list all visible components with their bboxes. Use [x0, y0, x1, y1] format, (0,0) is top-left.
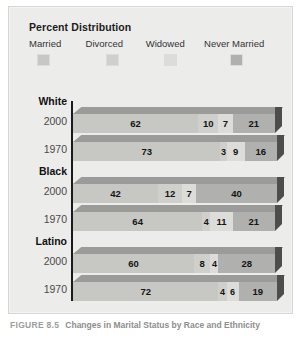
bar-segment-widowed[interactable]: 11 [210, 212, 232, 231]
bar-top-face [73, 107, 283, 114]
group-label: Latino [9, 235, 67, 247]
bar-row: 2000 42 12 7 40 [9, 177, 294, 203]
legend-item-divorced[interactable]: Divorced [86, 38, 146, 66]
year-label: 1970 [9, 143, 67, 155]
year-label: 2000 [9, 115, 67, 127]
bar-segment-married[interactable]: 60 [73, 254, 194, 273]
bar-segment-divorced[interactable]: 4 [218, 282, 226, 301]
bar-segment-never-married[interactable]: 21 [233, 212, 275, 231]
bar-segment-widowed[interactable]: 6 [227, 282, 239, 301]
legend-swatch-widowed [164, 54, 177, 66]
bar-segment-never-married[interactable]: 21 [233, 114, 275, 133]
bar-row: 1970 73 3 9 16 [9, 135, 294, 161]
legend-items: Married Divorced Widowed Never Married [29, 38, 277, 66]
figure-container: Percent Distribution Married Divorced Wi… [0, 0, 305, 338]
bar-side-face [277, 275, 284, 301]
year-label: 2000 [9, 185, 67, 197]
bar-segment-widowed[interactable]: 9 [227, 142, 245, 161]
bar-front-face: 73 3 9 16 [73, 142, 277, 161]
bar-segment-married[interactable]: 64 [73, 212, 202, 231]
bar-front-face: 60 8 4 28 [73, 254, 275, 273]
bar-segment-divorced[interactable]: 8 [194, 254, 210, 273]
bar-segment-never-married[interactable]: 19 [239, 282, 277, 301]
bar-segment-never-married[interactable]: 16 [245, 142, 277, 161]
bar-side-face [275, 247, 282, 273]
bar-row: 1970 72 4 6 19 [9, 275, 294, 301]
bar-top-face [73, 177, 285, 184]
bar-front-face: 62 10 7 21 [73, 114, 275, 133]
legend: Percent Distribution Married Divorced Wi… [29, 21, 277, 66]
stacked-bar[interactable]: 64 4 11 21 [73, 205, 275, 231]
stacked-bar[interactable]: 62 10 7 21 [73, 107, 275, 133]
chart-panel: Percent Distribution Married Divorced Wi… [8, 6, 293, 314]
bar-segment-married[interactable]: 62 [73, 114, 198, 133]
bar-segment-married[interactable]: 72 [73, 282, 218, 301]
legend-swatch-married [37, 54, 50, 66]
year-label: 1970 [9, 213, 67, 225]
legend-item-widowed[interactable]: Widowed [146, 38, 204, 66]
year-label: 1970 [9, 283, 67, 295]
legend-item-label: Married [29, 38, 61, 50]
bar-side-face [275, 205, 282, 231]
bar-top-face [73, 247, 283, 254]
bar-front-face: 64 4 11 21 [73, 212, 275, 231]
plot-area: White 2000 62 10 7 21 [9, 93, 294, 311]
bar-front-face: 72 4 6 19 [73, 282, 277, 301]
legend-swatch-divorced [106, 54, 119, 66]
legend-item-label: Divorced [86, 38, 124, 50]
bar-side-face [277, 135, 284, 161]
group-label: Black [9, 165, 67, 177]
y-axis-line [71, 101, 73, 301]
bar-top-face [73, 275, 285, 282]
bar-segment-married[interactable]: 42 [73, 184, 158, 203]
legend-item-never-married[interactable]: Never Married [204, 38, 277, 66]
bar-segment-divorced[interactable]: 12 [158, 184, 182, 203]
bar-row: 2000 60 8 4 28 [9, 247, 294, 273]
bar-segment-divorced[interactable]: 10 [198, 114, 218, 133]
bar-row: 2000 62 10 7 21 [9, 107, 294, 133]
group-label: White [9, 95, 67, 107]
legend-item-label: Never Married [204, 38, 264, 50]
legend-item-married[interactable]: Married [29, 38, 86, 66]
figure-caption: FIGURE 8.5Changes in Marital Status by R… [10, 320, 300, 338]
legend-item-label: Widowed [146, 38, 185, 50]
bar-side-face [277, 177, 284, 203]
year-label: 2000 [9, 255, 67, 267]
stacked-bar[interactable]: 60 8 4 28 [73, 247, 275, 273]
bar-segment-divorced[interactable]: 4 [202, 212, 210, 231]
stacked-bar[interactable]: 42 12 7 40 [73, 177, 277, 203]
bar-top-face [73, 135, 285, 142]
legend-title: Percent Distribution [29, 21, 277, 33]
bar-segment-never-married[interactable]: 28 [218, 254, 275, 273]
figure-caption-title: Changes in Marital Status by Race and Et… [65, 320, 260, 330]
legend-swatch-never-married [230, 54, 243, 66]
bar-segment-widowed[interactable]: 7 [182, 184, 196, 203]
figure-caption-number: FIGURE 8.5 [10, 320, 59, 330]
bar-row: 1970 64 4 11 21 [9, 205, 294, 231]
bar-segment-married[interactable]: 73 [73, 142, 220, 161]
bar-segment-never-married[interactable]: 40 [196, 184, 277, 203]
bar-front-face: 42 12 7 40 [73, 184, 277, 203]
stacked-bar[interactable]: 73 3 9 16 [73, 135, 277, 161]
bar-side-face [275, 107, 282, 133]
bar-top-face [73, 205, 283, 212]
stacked-bar[interactable]: 72 4 6 19 [73, 275, 277, 301]
bar-segment-widowed[interactable]: 4 [210, 254, 218, 273]
bar-segment-widowed[interactable]: 7 [218, 114, 232, 133]
